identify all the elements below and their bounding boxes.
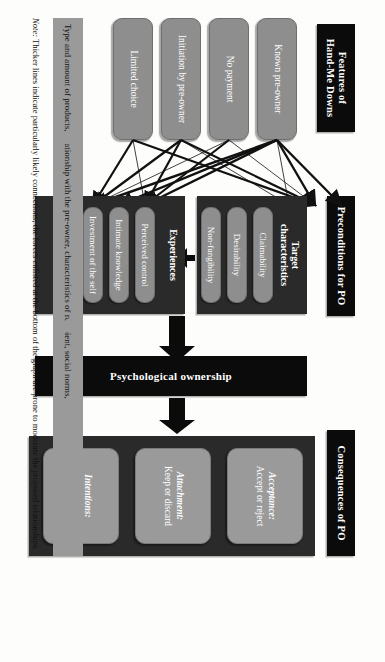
consequence-detail: Accept or reject [253, 466, 265, 527]
psychological-ownership-label: Psychological ownership [110, 370, 232, 382]
section-header-preconditions: Preconditions for PO [327, 196, 355, 316]
consequence-title: Attachment: [173, 472, 185, 521]
section-header-consequences: Consequences of PO [327, 430, 355, 556]
section-header-features: Features ofHand-Me Downs [317, 24, 355, 132]
figure-note-text: Thicker lines indicate particularly like… [31, 37, 41, 550]
consequence-node: Attachment: Keep or discard [135, 448, 211, 544]
conceptual-model-figure: Features ofHand-Me Downs Preconditions f… [0, 0, 385, 662]
figure-note-label: Note: [31, 18, 41, 37]
section-header-consequences-label: Consequences of PO [335, 445, 347, 540]
consequence-detail: Keep or discard [161, 466, 173, 526]
consequence-node: Acceptance: Accept or reject [227, 448, 303, 544]
figure-canvas: Features ofHand-Me Downs Preconditions f… [0, 0, 385, 662]
section-header-preconditions-label: Preconditions for PO [335, 207, 347, 306]
arrow-po-to-consequences [159, 398, 195, 434]
feature-node: Known pre-owner [257, 18, 297, 140]
consequence-title: Acceptance: [265, 472, 277, 520]
feature-node: Initiation by pre-owner [161, 18, 201, 140]
moderator-arrow-icon [55, 318, 81, 332]
moderator-text: Type and amount of products, relationshi… [53, 24, 83, 544]
precondition-node: Intimate knowledge [109, 207, 129, 303]
group-target-characteristics-label: Targetcharacteristics [279, 196, 301, 314]
precondition-node: Desirability [227, 207, 247, 303]
precondition-node: Claimability [253, 207, 273, 303]
moderator-arrow-icon [55, 130, 81, 144]
section-header-features-label: Features ofHand-Me Downs [324, 39, 348, 118]
precondition-node: Non-fungibility [201, 207, 221, 303]
precondition-node: Investment of the self [83, 207, 103, 303]
group-experiences-label: Experiences [168, 196, 179, 314]
feature-node: Limited choice [113, 18, 153, 140]
figure-note: Note: Thicker lines indicate particularl… [30, 18, 41, 618]
precondition-node: Perceived control [135, 207, 155, 303]
moderator-arrow-icon [55, 414, 81, 428]
feature-node: No payment [209, 18, 249, 140]
